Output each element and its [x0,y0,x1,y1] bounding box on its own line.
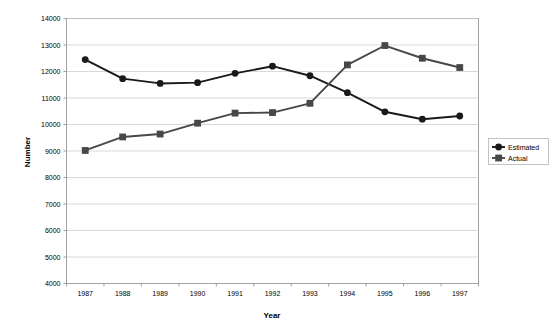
data-point-actual-1994 [344,61,351,68]
legend-label-estimated: Estimated [508,144,539,151]
x-tick-label: 1994 [340,290,356,297]
data-point-estimated-1989 [157,80,164,87]
x-tick-label: 1987 [77,290,93,297]
data-point-estimated-1988 [119,75,126,82]
legend: EstimatedActual [489,139,549,165]
data-point-estimated-1990 [194,79,201,86]
y-tick-label: 12000 [41,68,61,75]
data-point-estimated-1997 [456,113,463,120]
y-tick-label: 13000 [41,42,61,49]
y-tick-label: 8000 [45,174,61,181]
data-point-estimated-1991 [232,70,239,77]
data-point-actual-1988 [119,134,126,141]
y-tick-label: 9000 [45,148,61,155]
data-point-actual-1989 [157,131,164,138]
legend-marker-square-icon [495,155,502,162]
data-point-actual-1995 [381,42,388,49]
y-tick-label: 14000 [41,15,61,22]
line-chart: 4000500060007000800090001000011000120001… [0,0,550,329]
data-point-estimated-1994 [344,89,351,96]
data-point-actual-1997 [456,64,463,71]
y-tick-label: 10000 [41,121,61,128]
data-point-estimated-1992 [269,63,276,70]
y-tick-label: 4000 [45,280,61,287]
data-point-estimated-1993 [307,72,314,79]
y-tick-label: 7000 [45,201,61,208]
data-point-estimated-1995 [381,108,388,115]
data-point-estimated-1996 [419,116,426,123]
x-tick-labels-group: 1987198819891990199119921993199419951996… [77,290,467,297]
y-tick-label: 6000 [45,227,61,234]
x-tick-label: 1990 [190,290,206,297]
data-point-actual-1991 [232,110,239,117]
data-point-actual-1993 [307,100,314,107]
data-point-actual-1990 [194,120,201,127]
x-tick-label: 1996 [415,290,431,297]
y-tick-label: 5000 [45,254,61,261]
x-tick-label: 1991 [227,290,243,297]
x-tick-label: 1992 [265,290,281,297]
legend-label-actual: Actual [508,155,528,162]
x-tick-label: 1993 [302,290,318,297]
x-tick-marks-group [67,284,479,287]
x-axis-title: Year [264,311,281,320]
data-point-actual-1992 [269,109,276,116]
y-axis-title: Number [23,137,32,167]
data-point-estimated-1987 [82,56,89,63]
legend-marker-circle-icon [495,144,502,151]
y-tick-label: 11000 [42,95,61,102]
x-tick-label: 1997 [452,290,468,297]
chart-canvas: 4000500060007000800090001000011000120001… [0,0,550,329]
y-tick-labels-group: 4000500060007000800090001000011000120001… [41,15,61,287]
data-point-actual-1996 [419,55,426,62]
x-tick-label: 1989 [152,290,168,297]
x-tick-label: 1995 [377,290,393,297]
data-point-actual-1987 [82,147,89,154]
x-tick-label: 1988 [115,290,131,297]
